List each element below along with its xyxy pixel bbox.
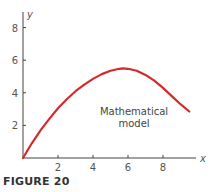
figure-caption: FIGURE 20 [3, 175, 70, 188]
x-tick-label: 4 [90, 162, 96, 173]
x-axis-label: x [199, 153, 206, 164]
x-tick-label: 6 [125, 162, 131, 173]
annotation-line-1: Mathematical [100, 106, 168, 117]
x-tick-label: 8 [160, 162, 166, 173]
y-axis-label: y [26, 9, 34, 20]
y-tick-label: 4 [12, 88, 18, 99]
x-tick-label: 2 [55, 162, 61, 173]
annotation-line-2: model [118, 118, 149, 129]
axis-ticks: 24682468 [12, 23, 167, 173]
y-tick-label: 8 [12, 23, 18, 34]
chart-canvas: 24682468 x y Mathematical model [0, 0, 216, 192]
y-tick-label: 2 [12, 120, 18, 131]
y-tick-label: 6 [12, 55, 18, 66]
